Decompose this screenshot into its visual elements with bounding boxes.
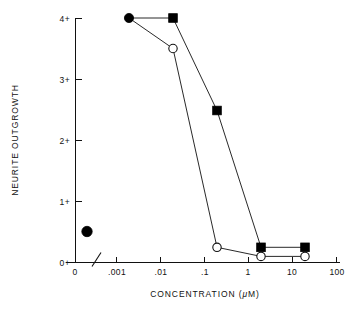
data-point-open-circle xyxy=(213,243,221,251)
series-filled-markers xyxy=(124,13,309,251)
x-tick-label-hundred: 100 xyxy=(329,267,344,277)
y-tick-label-1: 1+ xyxy=(60,197,70,207)
chart-canvas: 4+ 3+ 2+ 1+ 0+ 0 .001 .01 .1 1 10 xyxy=(0,0,355,314)
x-tick-labels: 0 .001 .01 .1 1 10 100 xyxy=(72,267,344,277)
x-tick-label-0: 0 xyxy=(72,267,77,277)
x-axis-title-main: CONCENTRATION ( xyxy=(150,289,242,299)
y-tick-label-3: 3+ xyxy=(60,75,70,85)
y-axis-title: NEURITE OUTGROWTH xyxy=(10,84,20,196)
axis-group xyxy=(66,18,340,263)
series-open-markers xyxy=(169,44,309,260)
x-tick-marks xyxy=(76,257,337,263)
y-tick-label-4: 4+ xyxy=(60,14,70,24)
y-tick-labels: 4+ 3+ 2+ 1+ 0+ xyxy=(60,14,70,268)
series-filled-line xyxy=(129,18,305,247)
data-point-filled-circle xyxy=(124,13,133,22)
x-tick-label-ten: 10 xyxy=(287,267,297,277)
axis-break-icon xyxy=(92,253,101,267)
y-tick-label-2: 2+ xyxy=(60,136,70,146)
series-lines xyxy=(129,18,305,256)
control-point-group xyxy=(82,226,92,236)
data-point-filled-square xyxy=(169,14,178,23)
y-tick-label-0: 0+ xyxy=(60,258,70,268)
y-tick-marks xyxy=(76,19,82,263)
data-point-filled-square xyxy=(301,243,310,252)
chart-figure: 4+ 3+ 2+ 1+ 0+ 0 .001 .01 .1 1 10 xyxy=(0,0,355,314)
x-tick-label-01: .01 xyxy=(155,267,168,277)
data-point-filled-square xyxy=(213,106,222,115)
data-point-open-circle xyxy=(169,44,177,52)
data-point-filled-square xyxy=(257,243,266,252)
data-point-control-filled-circle xyxy=(82,226,92,236)
series-open-line xyxy=(129,18,305,256)
data-point-open-circle xyxy=(301,252,309,260)
x-axis-title-tail: M) xyxy=(248,289,260,299)
x-tick-label-point1: .1 xyxy=(201,267,209,277)
x-tick-label-one: 1 xyxy=(245,267,250,277)
x-tick-label-001: .001 xyxy=(108,267,126,277)
data-point-open-circle xyxy=(257,252,265,260)
x-axis-title: CONCENTRATION (μM) xyxy=(150,289,259,299)
